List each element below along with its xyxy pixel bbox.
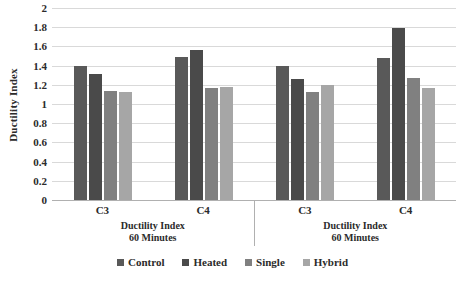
bar-hybrid (119, 92, 132, 200)
legend-label: Single (256, 256, 285, 268)
ductility-index-bar-chart: Ductility Index 21.81.61.41.210.80.60.40… (0, 0, 465, 288)
y-axis-tick-label: 1 (42, 98, 48, 110)
legend-item-single[interactable]: Single (245, 256, 285, 268)
legend-swatch-icon (117, 259, 124, 266)
category-axis-panel: C3C4Ductility Index60 Minutes (254, 201, 457, 246)
y-axis-tick-label: 0.8 (33, 117, 47, 129)
legend-item-control[interactable]: Control (117, 256, 164, 268)
bar-hybrid (220, 87, 233, 200)
bar-panel (254, 8, 456, 200)
bar-control (74, 66, 87, 200)
category-label-c3: C3 (255, 201, 356, 219)
y-axis-tick-label: 1.2 (33, 79, 47, 91)
bar-panel (52, 8, 254, 200)
bar-single (205, 88, 218, 200)
bar-control (377, 58, 390, 200)
bar-group-c4 (355, 8, 456, 200)
legend-label: Control (128, 256, 164, 268)
y-axis-tick-label: 0.6 (33, 136, 47, 148)
category-label-c4: C4 (153, 201, 254, 219)
legend-swatch-icon (182, 259, 189, 266)
y-axis-tick-labels: 21.81.61.41.210.80.60.40.20 (20, 8, 50, 200)
y-axis-tick-label: 1.4 (33, 60, 47, 72)
bar-group-c4 (153, 8, 254, 200)
bar-single (306, 92, 319, 200)
bar-heated (392, 28, 405, 200)
y-axis-tick-label: 2 (42, 2, 48, 14)
y-axis-tick-label: 0.2 (33, 175, 47, 187)
chart-legend: ControlHeatedSingleHybrid (0, 252, 465, 272)
category-label-c3: C3 (52, 201, 153, 219)
panel-axis-label-line2: 60 Minutes (129, 232, 177, 244)
bar-hybrid (422, 88, 435, 200)
y-axis-tick-label: 1.8 (33, 21, 47, 33)
panel-axis-label-line2: 60 Minutes (332, 232, 380, 244)
bar-single (407, 78, 420, 200)
bar-single (104, 91, 117, 200)
plot-area (52, 8, 456, 200)
bar-control (276, 66, 289, 200)
panel-axis-label-line1: Ductility Index (323, 220, 387, 232)
y-axis-tick-label: 0.4 (33, 156, 47, 168)
legend-item-hybrid[interactable]: Hybrid (303, 256, 348, 268)
bar-hybrid (321, 85, 334, 200)
legend-swatch-icon (245, 259, 252, 266)
legend-label: Heated (193, 256, 227, 268)
bar-heated (190, 50, 203, 200)
legend-swatch-icon (303, 259, 310, 266)
bar-control (175, 57, 188, 200)
category-label-c4: C4 (355, 201, 456, 219)
y-axis-tick-label: 0 (42, 194, 48, 206)
panel-axis-label: Ductility Index60 Minutes (255, 219, 457, 246)
legend-label: Hybrid (314, 256, 348, 268)
category-axis: C3C4Ductility Index60 MinutesC3C4Ductili… (52, 200, 456, 246)
panel-axis-label: Ductility Index60 Minutes (52, 219, 254, 246)
bar-group-c3 (52, 8, 153, 200)
y-axis-tick-label: 1.6 (33, 40, 47, 52)
panel-axis-label-line1: Ductility Index (121, 220, 185, 232)
category-axis-panel: C3C4Ductility Index60 Minutes (52, 201, 254, 246)
bar-group-c3 (254, 8, 355, 200)
legend-item-heated[interactable]: Heated (182, 256, 227, 268)
bar-heated (89, 74, 102, 200)
bar-panels (52, 8, 456, 200)
bar-heated (291, 79, 304, 200)
y-axis-title-text: Ductility Index (7, 68, 19, 142)
